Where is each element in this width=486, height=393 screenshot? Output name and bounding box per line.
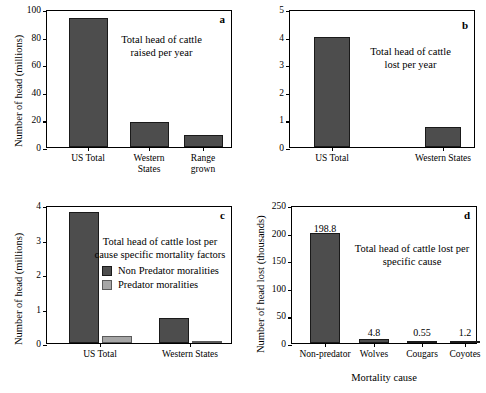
panel-c-legend: Non Predator moralities Predator moralit… <box>102 265 219 293</box>
panel-c: Number of head (millions) 4 3 2 1 0 US T… <box>0 196 243 393</box>
panel-d-value-label-wolves: 4.8 <box>368 328 381 338</box>
panel-d-xtick-1 <box>374 343 375 347</box>
panel-c-annotation: Total head of cattle lost per cause spec… <box>87 235 233 261</box>
panel-d-ytick-label-0: 0 <box>281 340 286 350</box>
panel-a-annotation-line2: raised per year <box>131 47 193 58</box>
panel-b-ytick-label-4: 4 <box>279 34 284 44</box>
panel-c-ytick-label-1: 1 <box>36 306 41 316</box>
panel-c-xtick-1 <box>190 343 191 347</box>
panel-a-annotation-line1: Total head of cattle <box>121 34 202 45</box>
panel-c-legend-item-non-predator: Non Predator moralities <box>102 265 219 276</box>
panel-b-xtick-1 <box>443 147 444 151</box>
panel-b-ytick-label-3: 3 <box>279 61 284 71</box>
panel-d-ytick-200 <box>288 235 292 236</box>
panel-c-annotation-line2: cause specific mortality factors <box>95 249 226 260</box>
panel-d-xlabel-wolves: Wolves <box>360 349 388 360</box>
panel-a-ytick-label-0: 0 <box>36 144 41 154</box>
panel-c-xlabel-western-states: Western States <box>162 349 218 360</box>
panel-a-xlabel-range-grown-line2: grown <box>191 164 215 174</box>
panel-a: Number of head (millions) 100 80 60 40 2… <box>0 0 243 196</box>
panel-c-ytick-3 <box>43 242 47 243</box>
panel-b-plot-area: 5 4 3 2 1 0 US Total Western States Tota… <box>289 10 475 148</box>
panel-a-xtick-1 <box>149 147 150 151</box>
panel-b-ytick-5 <box>286 11 290 12</box>
panel-c-ytick-label-2: 2 <box>36 271 41 281</box>
panel-b-letter: b <box>462 19 468 31</box>
panel-a-plot-area: 100 80 60 40 20 0 US Total Western State… <box>46 10 232 148</box>
panel-d: Number of head lost (thousands) 250 200 … <box>243 196 486 393</box>
panel-c-plot-area: 4 3 2 1 0 US Total Western States Total … <box>46 206 232 344</box>
panel-a-y-axis-title: Number of head (millions) <box>13 35 24 147</box>
panel-c-ytick-2 <box>43 276 47 277</box>
panel-d-value-label-cougars: 0.55 <box>413 328 431 338</box>
panel-a-ytick-label-40: 40 <box>32 89 42 99</box>
panel-c-ytick-1 <box>43 311 47 312</box>
panel-d-ytick-label-100: 100 <box>272 285 286 295</box>
panel-b-bar-us-total <box>314 37 350 147</box>
panel-d-xlabel-coyotes: Coyotes <box>449 349 480 360</box>
panel-d-annotation-line1: Total head of cattle lost per <box>355 243 469 254</box>
panel-a-ytick-0 <box>43 149 47 150</box>
panel-a-ytick-100 <box>43 11 47 12</box>
panel-c-letter: c <box>220 209 225 221</box>
panel-c-legend-label-predator: Predator moralities <box>118 279 198 290</box>
panel-a-ytick-label-80: 80 <box>32 34 42 44</box>
panel-d-ytick-50 <box>288 317 292 318</box>
panel-c-ytick-4 <box>43 207 47 208</box>
panel-d-ytick-label-250: 250 <box>272 202 286 212</box>
panel-c-annotation-line1: Total head of cattle lost per <box>103 236 217 247</box>
panel-d-xtick-2 <box>422 343 423 347</box>
panel-a-letter: a <box>220 13 226 25</box>
panel-d-y-axis-title: Number of head lost (thousands) <box>255 215 266 353</box>
panel-d-annotation-line2: specific cause <box>383 256 442 267</box>
panel-c-y-axis-title: Number of head (millions) <box>13 233 24 345</box>
panel-a-ytick-40 <box>43 94 47 95</box>
panel-b-annotation-line1: Total head of cattle <box>370 46 451 57</box>
panel-a-bar-range-grown <box>184 135 223 147</box>
panel-d-ytick-label-150: 150 <box>272 257 286 267</box>
panel-b: 5 4 3 2 1 0 US Total Western States Tota… <box>243 0 486 196</box>
panel-a-xtick-0 <box>88 147 89 151</box>
panel-c-ytick-label-3: 3 <box>36 237 41 247</box>
panel-a-xlabel-us-total: US Total <box>61 153 115 164</box>
panel-a-xlabel-range-grown-line1: Range <box>191 153 215 163</box>
panel-a-ytick-label-60: 60 <box>32 61 42 71</box>
panel-d-value-label-coyotes: 1.2 <box>459 328 472 338</box>
panel-a-xlabel-western-states: Western States <box>122 153 176 175</box>
panel-d-bar-non-predator <box>310 233 340 343</box>
panel-c-bar-us-total-predator <box>102 336 132 343</box>
panel-b-ytick-label-2: 2 <box>279 89 284 99</box>
panel-c-legend-swatch-non-predator <box>102 266 112 276</box>
panel-c-bar-western-states-predator <box>192 341 222 344</box>
panel-b-ytick-4 <box>286 39 290 40</box>
panel-d-ytick-label-50: 50 <box>277 313 287 323</box>
panel-a-ytick-20 <box>43 121 47 122</box>
panel-c-legend-label-non-predator: Non Predator moralities <box>118 265 219 276</box>
panel-a-ytick-80 <box>43 39 47 40</box>
panel-a-ytick-label-100: 100 <box>27 6 41 16</box>
panel-c-xtick-0 <box>100 343 101 347</box>
panel-b-ytick-label-1: 1 <box>279 117 284 127</box>
panel-d-ytick-150 <box>288 262 292 263</box>
panel-b-annotation-line2: lost per year <box>385 59 437 70</box>
panel-a-xlabel-western-states-line1: Western <box>134 153 165 163</box>
panel-b-ytick-label-0: 0 <box>279 144 284 154</box>
panel-b-xlabel-us-total: US Total <box>315 153 349 164</box>
figure-cattle-mortality: Number of head (millions) 100 80 60 40 2… <box>0 0 486 393</box>
panel-c-ytick-label-4: 4 <box>36 202 41 212</box>
panel-c-bar-western-states-nonpredator <box>159 318 189 343</box>
panel-b-annotation: Total head of cattle lost per year <box>348 45 473 71</box>
panel-c-bar-us-total-nonpredator <box>69 212 99 343</box>
panel-d-ytick-100 <box>288 290 292 291</box>
panel-a-annotation: Total head of cattle raised per year <box>99 33 224 59</box>
panel-d-x-axis-title: Mortality cause <box>351 372 417 383</box>
panel-d-xlabel-cougars: Cougars <box>406 349 438 360</box>
panel-a-xlabel-western-states-line2: States <box>138 164 161 174</box>
panel-d-ytick-0 <box>288 345 292 346</box>
panel-d-annotation: Total head of cattle lost per specific c… <box>342 242 482 268</box>
panel-c-legend-item-predator: Predator moralities <box>102 279 219 290</box>
panel-d-ytick-250 <box>288 207 292 208</box>
panel-a-ytick-60 <box>43 66 47 67</box>
panel-b-xlabel-western-states: Western States <box>415 153 471 164</box>
panel-d-ytick-label-200: 200 <box>272 230 286 240</box>
